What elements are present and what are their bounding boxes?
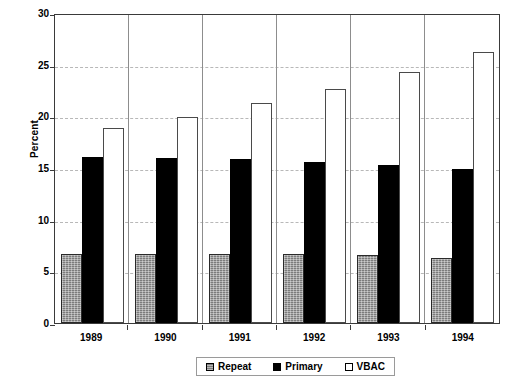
bar-groups <box>55 15 499 323</box>
bar-vbac-1990[interactable] <box>177 117 198 323</box>
x-tick: 1994 <box>426 327 500 345</box>
bar-primary-1993[interactable] <box>378 165 399 323</box>
bar-primary-1991[interactable] <box>230 159 251 323</box>
legend-item-primary[interactable]: Primary <box>273 361 322 372</box>
y-tick-label: 15 <box>3 163 49 174</box>
x-axis-labels: 198919901991199219931994 <box>54 327 500 345</box>
bar-vbac-1992[interactable] <box>325 89 346 323</box>
x-tick: 1993 <box>351 327 425 345</box>
x-tick: 1989 <box>54 327 128 345</box>
bar-vbac-1994[interactable] <box>473 52 494 323</box>
x-tick-label: 1992 <box>277 327 351 343</box>
legend-item-repeat[interactable]: Repeat <box>206 361 251 372</box>
legend-swatch-primary-icon <box>273 363 281 371</box>
y-tick-label: 25 <box>3 60 49 71</box>
bar-primary-1989[interactable] <box>82 157 103 323</box>
y-tick-label: 0 <box>3 318 49 329</box>
bar-vbac-1991[interactable] <box>251 103 272 323</box>
bar-primary-1994[interactable] <box>452 169 473 323</box>
bar-repeat-1994[interactable] <box>431 258 452 323</box>
y-tick-label: 20 <box>3 111 49 122</box>
chart-legend: Repeat Primary VBAC <box>196 357 395 376</box>
legend-swatch-vbac-icon <box>345 363 353 371</box>
bar-repeat-1992[interactable] <box>283 254 304 323</box>
y-tick-label: 10 <box>3 215 49 226</box>
bar-repeat-1991[interactable] <box>209 254 230 323</box>
bar-group <box>277 15 351 323</box>
x-tick-label: 1990 <box>128 327 202 343</box>
bar-vbac-1993[interactable] <box>399 72 420 323</box>
bar-repeat-1990[interactable] <box>135 254 156 323</box>
bar-group <box>203 15 277 323</box>
x-tick: 1992 <box>277 327 351 345</box>
bar-primary-1992[interactable] <box>304 162 325 323</box>
x-tick: 1991 <box>203 327 277 345</box>
bar-group <box>351 15 425 323</box>
legend-label-primary: Primary <box>285 361 322 372</box>
bar-group <box>55 15 129 323</box>
bar-group <box>425 15 499 323</box>
plot-area: 051015202530 <box>54 14 500 324</box>
legend-item-vbac[interactable]: VBAC <box>345 361 385 372</box>
x-tick-label: 1994 <box>426 327 500 343</box>
legend-label-vbac: VBAC <box>357 361 385 372</box>
bar-repeat-1993[interactable] <box>357 255 378 323</box>
y-tick-label: 30 <box>3 8 49 19</box>
legend-swatch-repeat-icon <box>206 363 214 371</box>
y-tick-label: 5 <box>3 266 49 277</box>
y-tick-mark <box>50 325 55 326</box>
x-tick-label: 1991 <box>203 327 277 343</box>
bar-group <box>129 15 203 323</box>
x-tick-label: 1989 <box>54 327 128 343</box>
bar-chart: Percent 051015202530 1989199019911992199… <box>0 0 516 383</box>
bar-vbac-1989[interactable] <box>103 128 124 323</box>
bar-primary-1990[interactable] <box>156 158 177 323</box>
x-tick-label: 1993 <box>351 327 425 343</box>
legend-label-repeat: Repeat <box>218 361 251 372</box>
bar-repeat-1989[interactable] <box>61 254 82 323</box>
x-tick: 1990 <box>128 327 202 345</box>
